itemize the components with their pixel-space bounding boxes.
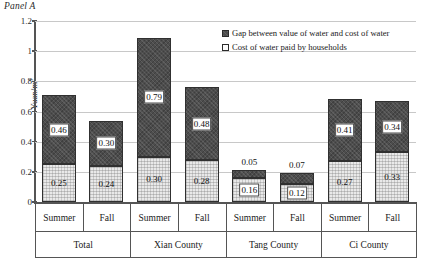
bar-value-label-cost: 0.28 (194, 175, 210, 186)
bar-segment-gap[interactable] (232, 170, 266, 178)
y-tick-label: 0.6 (21, 107, 32, 117)
bar-value-label-cost: 0.12 (287, 186, 307, 199)
y-axis-tick-labels: 00.20.40.60.811.2 (0, 21, 32, 202)
x-axis-season-label: Summer (36, 204, 84, 231)
legend-label: Gap between value of water and cost of w… (232, 27, 389, 41)
bar-value-label-cost: 0.30 (146, 174, 162, 185)
panel-title: Panel A (4, 1, 36, 11)
bar-value-label-gap: 0.41 (335, 124, 355, 137)
gridline (35, 21, 416, 22)
legend-label: Cost of water paid by households (232, 41, 347, 55)
legend-swatch-icon-gap (222, 30, 229, 37)
y-tick-label: 1.2 (21, 16, 32, 26)
bar-value-label-cost: 0.33 (384, 172, 400, 183)
bar-value-label-gap: 0.79 (144, 91, 164, 104)
x-axis-group-label: Tang County (227, 232, 322, 257)
bar-total-summer[interactable]: 0.250.46 (42, 95, 76, 202)
y-tick-label: 0.4 (21, 137, 32, 147)
bar-total-fall[interactable]: 0.240.30 (89, 121, 123, 202)
x-axis-group-label: Xian County (131, 232, 226, 257)
x-axis-group-label: Total (36, 232, 131, 257)
x-axis-season-label: Summer (131, 204, 179, 231)
bar-value-label-gap: 0.46 (49, 123, 69, 136)
bar-segment-gap[interactable] (280, 173, 314, 184)
bar-value-label-gap: 0.34 (382, 120, 402, 133)
bar-value-label-cost: 0.16 (239, 183, 259, 196)
bar-value-label-gap: 0.30 (97, 137, 117, 150)
bar-tang-county-fall[interactable]: 0.120.07 (280, 173, 314, 202)
chart-legend: Gap between value of water and cost of w… (222, 27, 389, 54)
legend-item-cost[interactable]: Cost of water paid by households (222, 41, 389, 55)
legend-swatch-icon-cost (222, 44, 229, 51)
bar-value-label-cost: 0.27 (337, 176, 353, 187)
bar-value-label-cost: 0.24 (99, 178, 115, 189)
y-tick-label: 0.2 (21, 167, 32, 177)
x-axis-season-label: Fall (179, 204, 227, 231)
bar-xian-county-summer[interactable]: 0.300.79 (137, 38, 171, 202)
legend-item-gap[interactable]: Gap between value of water and cost of w… (222, 27, 389, 41)
gridline (35, 81, 416, 82)
x-axis-group-label: Ci County (322, 232, 416, 257)
x-axis-season-label: Summer (322, 204, 370, 231)
bar-value-label-gap: 0.07 (289, 160, 305, 170)
bar-value-label-cost: 0.25 (51, 178, 67, 189)
bar-ci-county-summer[interactable]: 0.270.41 (328, 99, 362, 202)
x-axis-group-row: TotalXian CountyTang CountyCi County (36, 231, 416, 257)
x-axis-season-label: Fall (369, 204, 416, 231)
x-axis-season-row: SummerFallSummerFallSummerFallSummerFall (36, 204, 416, 231)
x-axis-label-table: SummerFallSummerFallSummerFallSummerFall… (35, 204, 417, 258)
y-tick-label: 0.8 (21, 76, 32, 86)
bar-value-label-gap: 0.05 (241, 157, 257, 167)
bar-ci-county-fall[interactable]: 0.330.34 (375, 101, 409, 202)
x-axis-season-label: Fall (84, 204, 132, 231)
bar-value-label-gap: 0.48 (192, 117, 212, 130)
x-axis-season-label: Summer (227, 204, 275, 231)
bar-xian-county-fall[interactable]: 0.280.48 (185, 87, 219, 202)
x-axis-season-label: Fall (274, 204, 322, 231)
bar-tang-county-summer[interactable]: 0.160.05 (232, 170, 266, 202)
